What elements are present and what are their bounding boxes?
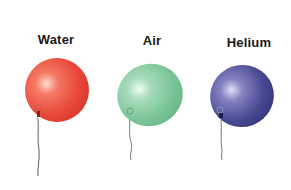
water-balloon-neck: [37, 111, 40, 117]
water-balloon-body: [16, 49, 98, 131]
helium-balloon: [201, 56, 282, 160]
air-balloon: [108, 55, 191, 160]
helium-balloon-neck: [219, 113, 223, 118]
air-balloon-body: [108, 55, 191, 136]
helium-balloon-string: [221, 120, 222, 160]
water-balloon-string: [38, 118, 39, 176]
helium-balloon-body: [201, 56, 282, 136]
water-balloon: [16, 49, 98, 176]
air-balloon-string: [129, 115, 132, 160]
balloon-scene: [0, 0, 291, 190]
